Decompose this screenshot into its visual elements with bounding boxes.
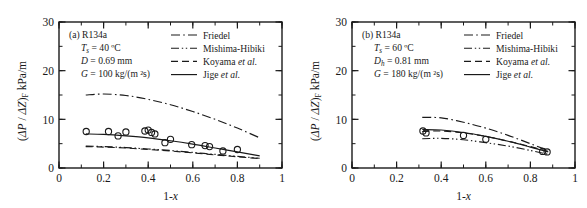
x-tick-label: 0 [349, 172, 355, 184]
chart-panel-a: 00.20.40.60.8101020301-x(ΔP / ΔZ)F kPa/m… [0, 0, 293, 208]
annotation-saturation-temperature: Ts = 40 ºC [81, 42, 121, 55]
x-tick-label: 0.8 [230, 172, 245, 184]
chart-svg-b: 00.20.40.60.8101020301-x(ΔP / ΔZ)F kPa/m… [293, 0, 586, 208]
x-tick-label: 0.8 [523, 172, 538, 184]
data-point [483, 136, 489, 142]
x-tick-label: 1 [279, 172, 285, 184]
legend-label-koyama: Koyama et al. [496, 56, 550, 67]
annotation-refrigerant: (b) R134a [362, 29, 401, 41]
curve-friedel [422, 117, 548, 150]
x-tick-label: 0 [56, 172, 62, 184]
annotation-refrigerant: (a) R134a [69, 29, 108, 41]
chart-panel-b: 00.20.40.60.8101020301-x(ΔP / ΔZ)F kPa/m… [293, 0, 586, 208]
y-tick-label: 20 [43, 65, 55, 77]
chart-svg-a: 00.20.40.60.8101020301-x(ΔP / ΔZ)F kPa/m… [0, 0, 293, 208]
legend-label-jige: Jige et al. [496, 69, 533, 80]
y-tick-label: 30 [43, 16, 55, 28]
legend-label-mishima-hibiki: Mishima-Hibiki [496, 43, 558, 54]
x-tick-label: 1 [572, 172, 578, 184]
data-point [105, 128, 111, 134]
y-tick-label: 20 [336, 65, 348, 77]
legend-label-koyama: Koyama et al. [203, 56, 257, 67]
curve-jige-et-al- [422, 130, 548, 152]
x-tick-label: 0.4 [434, 172, 449, 184]
data-point [460, 132, 466, 138]
x-axis-title: 1-x [163, 190, 179, 202]
figure-container: 00.20.40.60.8101020301-x(ΔP / ΔZ)F kPa/m… [0, 0, 587, 208]
annotation-mass-flux: G = 180 kg/(m ²s) [374, 68, 443, 80]
x-tick-label: 0.6 [479, 172, 494, 184]
y-tick-label: 0 [341, 162, 347, 174]
data-point [123, 129, 129, 135]
annotation-saturation-temperature: Ts = 60 ºC [374, 42, 414, 55]
data-point [167, 136, 173, 142]
annotation-diameter: D = 0.69 mm [80, 55, 133, 66]
y-axis-title: (ΔP / ΔZ)F kPa/m [309, 61, 323, 141]
y-tick-label: 30 [336, 16, 348, 28]
y-tick-label: 10 [336, 114, 348, 126]
legend-label-friedel: Friedel [203, 30, 231, 41]
legend-label-jige: Jige et al. [203, 69, 240, 80]
x-axis-title: 1-x [456, 190, 472, 202]
annotation-mass-flux: G = 100 kg/(m ²s) [81, 68, 150, 80]
x-tick-label: 0.4 [141, 172, 156, 184]
curve-koyama-et-al- [422, 131, 548, 151]
y-tick-label: 0 [48, 162, 54, 174]
annotation-hydraulic-diameter: Dh = 0.81 mm [373, 55, 429, 68]
legend-label-friedel: Friedel [496, 30, 524, 41]
x-tick-label: 0.2 [96, 172, 111, 184]
x-tick-label: 0.2 [389, 172, 404, 184]
curve-koyama-et-al- [86, 147, 260, 159]
legend-label-mishima-hibiki: Mishima-Hibiki [203, 43, 265, 54]
x-tick-label: 0.6 [186, 172, 201, 184]
y-axis-title: (ΔP / ΔZ)F kPa/m [16, 61, 30, 141]
data-point [220, 148, 226, 154]
y-tick-label: 10 [43, 114, 55, 126]
